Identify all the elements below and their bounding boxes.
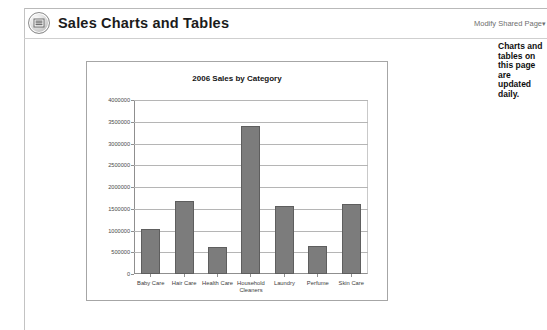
- modify-shared-page-link[interactable]: Modify Shared Page▾: [474, 19, 547, 28]
- y-axis-tick-label: 1500000: [108, 206, 130, 212]
- bar[interactable]: [241, 126, 260, 274]
- bar-slot: [234, 100, 267, 274]
- x-axis-labels: Baby CareHair CareHealth CareHousehold C…: [134, 280, 368, 294]
- y-axis-tick-label: 2000000: [108, 184, 130, 190]
- page-header: Sales Charts and Tables Modify Shared Pa…: [24, 9, 547, 37]
- page-root: Sales Charts and Tables Modify Shared Pa…: [0, 0, 547, 330]
- header-divider: [24, 38, 547, 39]
- x-axis-tick: [317, 274, 318, 277]
- x-axis-tick: [250, 274, 251, 277]
- x-axis-label: Household Cleaners: [234, 280, 267, 294]
- bar-series: [134, 100, 368, 274]
- chart-plot-area: 0500000100000015000002000000250000030000…: [134, 100, 368, 274]
- bar[interactable]: [275, 206, 294, 274]
- bar-slot: [268, 100, 301, 274]
- x-axis-label: Hair Care: [167, 280, 200, 294]
- x-axis-label: Skin Care: [335, 280, 368, 294]
- bar[interactable]: [342, 204, 361, 274]
- chart-title: 2006 Sales by Category: [87, 74, 387, 83]
- sidebar-note: Charts and tables on this page are updat…: [498, 42, 545, 100]
- y-axis-tick-label: 0: [127, 271, 130, 277]
- bar-slot: [201, 100, 234, 274]
- chevron-down-icon: ▾: [542, 20, 546, 27]
- bar-slot: [134, 100, 167, 274]
- bar-slot: [301, 100, 334, 274]
- y-axis-tick-label: 500000: [111, 249, 130, 255]
- bar[interactable]: [141, 229, 160, 274]
- x-axis-tick: [184, 274, 185, 277]
- bar[interactable]: [308, 246, 327, 274]
- x-axis-tick: [217, 274, 218, 277]
- x-axis-label: Perfume: [301, 280, 334, 294]
- left-frame-line: [24, 8, 25, 330]
- list-circle-icon: [28, 12, 50, 34]
- modify-shared-page-label: Modify Shared Page: [474, 19, 542, 28]
- x-axis-tick: [284, 274, 285, 277]
- x-axis-label: Baby Care: [134, 280, 167, 294]
- y-axis-tick-label: 4000000: [108, 97, 130, 103]
- x-axis-tick: [150, 274, 151, 277]
- page-title: Sales Charts and Tables: [58, 15, 229, 31]
- bar-slot: [167, 100, 200, 274]
- x-axis-label: Laundry: [268, 280, 301, 294]
- x-axis-label: Health Care: [201, 280, 234, 294]
- y-axis-tick-label: 3000000: [108, 141, 130, 147]
- chart-webpart: 2006 Sales by Category 05000001000000150…: [86, 61, 388, 301]
- x-axis-tick: [351, 274, 352, 277]
- y-axis-tick: [131, 274, 134, 275]
- bar-slot: [335, 100, 368, 274]
- y-axis-tick-label: 1000000: [108, 228, 130, 234]
- y-axis-tick-label: 3500000: [108, 119, 130, 125]
- bar[interactable]: [175, 201, 194, 274]
- y-axis-tick-label: 2500000: [108, 162, 130, 168]
- bar[interactable]: [208, 247, 227, 274]
